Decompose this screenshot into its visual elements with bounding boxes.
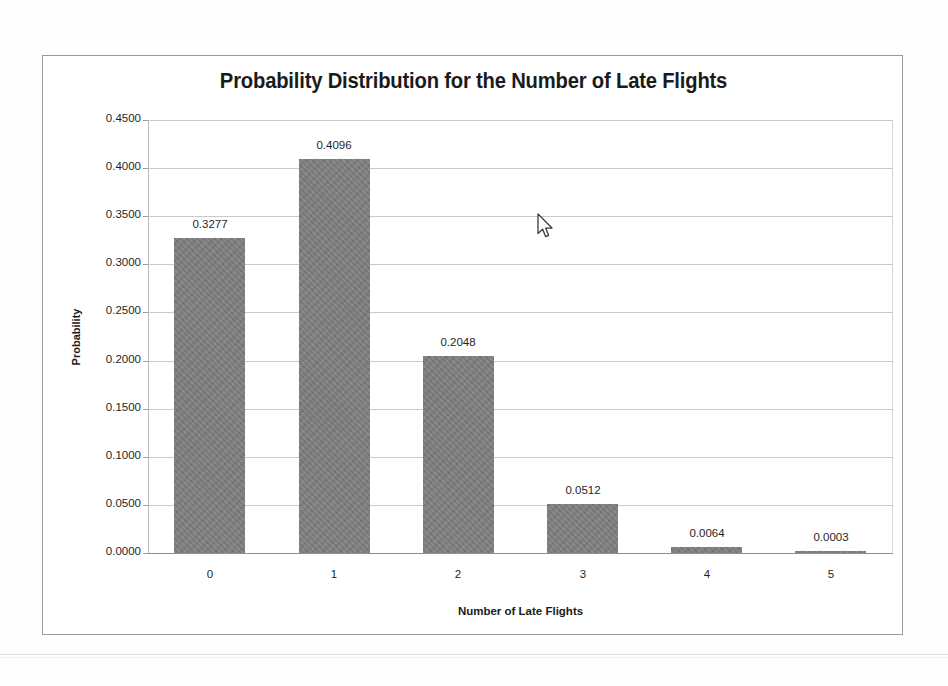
y-axis-tick-label: 0.1500: [71, 401, 141, 413]
y-axis-tick-mark: [143, 120, 148, 121]
gridline: [148, 409, 893, 410]
chart-container: Probability Distribution for the Number …: [42, 55, 903, 635]
gridline: [148, 361, 893, 362]
bar-value-label: 0.3277: [170, 218, 250, 230]
x-axis-tick-label: 1: [304, 568, 364, 580]
y-axis-tick-label: 0.0000: [71, 545, 141, 557]
y-axis-tick-mark: [143, 312, 148, 313]
x-axis-tick-label: 0: [180, 568, 240, 580]
gridline: [148, 312, 893, 313]
chart-title: Probability Distribution for the Number …: [69, 69, 878, 94]
y-axis-tick-label: 0.4500: [71, 112, 141, 124]
bar: [174, 238, 245, 553]
gridline: [148, 457, 893, 458]
x-axis-tick-label: 3: [553, 568, 613, 580]
gridline: [148, 120, 893, 121]
y-axis-tick-mark: [143, 505, 148, 506]
bar-value-label: 0.4096: [294, 139, 374, 151]
gridline: [148, 505, 893, 506]
y-axis-tick-label: 0.3000: [71, 256, 141, 268]
bar-value-label: 0.2048: [418, 336, 498, 348]
gridline: [148, 168, 893, 169]
y-axis-tick-label: 0.1000: [71, 449, 141, 461]
y-axis-tick-label: 0.2000: [71, 353, 141, 365]
page-edge-line-secondary: [0, 657, 948, 658]
plot-area: [148, 120, 893, 553]
scanned-page: Probability Distribution for the Number …: [0, 0, 948, 686]
gridline: [148, 216, 893, 217]
x-axis-tick-label: 4: [677, 568, 737, 580]
y-axis-tick-mark: [143, 168, 148, 169]
x-axis-line: [148, 553, 893, 554]
y-axis-tick-mark: [143, 361, 148, 362]
y-axis-tick-label: 0.2500: [71, 304, 141, 316]
y-axis-tick-label: 0.4000: [71, 160, 141, 172]
bar: [547, 504, 618, 553]
bar: [299, 159, 370, 553]
y-axis-tick-mark: [143, 216, 148, 217]
page-edge-line: [0, 654, 948, 655]
y-axis-tick-mark: [143, 409, 148, 410]
y-axis-tick-labels: 0.45000.40000.35000.30000.25000.20000.15…: [67, 120, 141, 554]
y-axis-line: [148, 120, 149, 554]
y-axis-tick-label: 0.0500: [71, 497, 141, 509]
y-axis-tick-mark: [143, 457, 148, 458]
bar-value-label: 0.0003: [791, 531, 871, 543]
y-axis-tick-mark: [143, 553, 148, 554]
gridline: [148, 264, 893, 265]
x-axis-title: Number of Late Flights: [148, 605, 893, 617]
bar-value-label: 0.0064: [667, 527, 747, 539]
x-axis-tick-label: 2: [428, 568, 488, 580]
bar-value-label: 0.0512: [543, 484, 623, 496]
y-axis-tick-mark: [143, 264, 148, 265]
plot-border-right: [892, 120, 893, 554]
x-axis-tick-label: 5: [801, 568, 861, 580]
y-axis-tick-label: 0.3500: [71, 208, 141, 220]
bar: [423, 356, 494, 553]
